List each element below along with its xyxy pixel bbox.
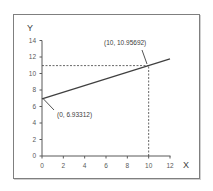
annotation-start-label: (0, 6.93312)	[57, 111, 92, 119]
chart-canvas: 02468101214 024681012 Y X (0, 6.93312) (…	[0, 0, 213, 191]
annotation-leader-end	[142, 50, 147, 64]
x-ticks: 024681012	[40, 156, 174, 169]
y-tick-label: 8	[32, 86, 36, 93]
y-ticks: 02468101214	[29, 37, 42, 160]
y-tick-label: 12	[29, 53, 37, 60]
x-tick-label: 6	[104, 162, 108, 169]
y-tick-label: 6	[32, 103, 36, 110]
x-tick-label: 12	[166, 162, 174, 169]
x-tick-label: 0	[40, 162, 44, 169]
y-tick-label: 10	[29, 70, 37, 77]
annotation-end-label: (10, 10.95692)	[104, 39, 146, 47]
y-tick-label: 2	[32, 136, 36, 143]
x-axis-title: X	[183, 160, 189, 170]
annotation-leader-start	[44, 99, 55, 110]
y-tick-label: 4	[32, 119, 36, 126]
x-tick-label: 4	[83, 162, 87, 169]
y-axis-title: Y	[27, 23, 33, 33]
y-tick-label: 14	[29, 37, 37, 44]
x-tick-label: 8	[126, 162, 130, 169]
data-line	[42, 59, 170, 99]
x-tick-label: 2	[62, 162, 66, 169]
x-tick-label: 10	[145, 162, 153, 169]
y-tick-label: 0	[32, 152, 36, 159]
